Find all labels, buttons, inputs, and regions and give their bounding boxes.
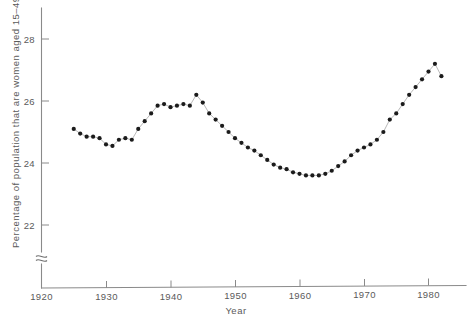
data-point — [259, 153, 263, 157]
y-tick-label-28: 28 — [24, 34, 35, 45]
y-axis-title: Percentage of population that are women … — [10, 0, 21, 248]
data-point — [414, 85, 418, 89]
data-point — [220, 124, 224, 128]
data-point — [343, 159, 347, 163]
x-axis-ticks: 1920 1930 1940 1950 1960 1970 1980 — [30, 279, 440, 303]
data-point — [85, 135, 89, 139]
data-point — [278, 166, 282, 170]
chart-canvas: Percentage of population that are women … — [0, 0, 472, 324]
data-point — [426, 69, 430, 73]
data-point — [239, 141, 243, 145]
data-point — [336, 164, 340, 168]
data-point — [355, 149, 359, 153]
data-point — [188, 104, 192, 108]
data-point — [394, 111, 398, 115]
x-axis-title: Year — [225, 305, 246, 316]
data-point — [323, 172, 327, 176]
x-tick-label-1920: 1920 — [30, 291, 53, 302]
chart-figure: Percentage of population that are women … — [0, 0, 472, 324]
data-point — [214, 118, 218, 122]
data-point — [381, 130, 385, 134]
series-markers — [72, 62, 444, 178]
data-point — [156, 104, 160, 108]
data-point — [97, 136, 101, 140]
data-point — [233, 136, 237, 140]
data-point — [207, 111, 211, 115]
y-axis-break-icon — [36, 256, 47, 262]
data-point — [194, 93, 198, 97]
x-tick-label-1970: 1970 — [353, 289, 376, 300]
x-tick-label-1930: 1930 — [95, 291, 118, 302]
y-axis-ticks: 28 26 24 22 — [24, 34, 49, 231]
data-point — [265, 158, 269, 162]
data-point — [123, 136, 127, 140]
data-point — [285, 167, 289, 171]
data-point — [181, 102, 185, 106]
data-point — [110, 144, 114, 148]
data-point — [349, 153, 353, 157]
data-point — [162, 102, 166, 106]
data-point — [117, 138, 121, 142]
x-tick-label-1980: 1980 — [417, 289, 440, 300]
data-point — [330, 169, 334, 173]
data-point — [420, 77, 424, 81]
data-point — [375, 138, 379, 142]
data-point — [291, 170, 295, 174]
data-point — [252, 149, 256, 153]
data-point — [143, 119, 147, 123]
x-tick-label-1940: 1940 — [160, 291, 183, 302]
data-point — [168, 105, 172, 109]
data-point — [362, 145, 366, 149]
data-point — [433, 62, 437, 66]
data-point — [317, 173, 321, 177]
data-point — [201, 100, 205, 104]
data-point — [368, 142, 372, 146]
data-point — [297, 172, 301, 176]
data-point — [272, 162, 276, 166]
data-point — [175, 104, 179, 108]
data-point — [407, 93, 411, 97]
series-line — [74, 64, 442, 176]
x-axis-line — [42, 286, 467, 289]
data-point — [310, 173, 314, 177]
y-tick-label-24: 24 — [24, 158, 35, 169]
data-point — [439, 74, 443, 78]
data-point — [130, 138, 134, 142]
data-point — [78, 131, 82, 135]
data-point — [72, 127, 76, 131]
x-tick-label-1950: 1950 — [224, 290, 247, 301]
y-tick-label-26: 26 — [24, 96, 35, 107]
data-point — [149, 111, 153, 115]
data-point — [246, 145, 250, 149]
data-point — [104, 142, 108, 146]
data-point — [226, 130, 230, 134]
data-point — [401, 102, 405, 106]
data-point — [388, 118, 392, 122]
y-tick-label-22: 22 — [24, 220, 35, 231]
data-point — [136, 127, 140, 131]
data-point — [304, 173, 308, 177]
x-tick-label-1960: 1960 — [289, 290, 312, 301]
data-point — [91, 135, 95, 139]
